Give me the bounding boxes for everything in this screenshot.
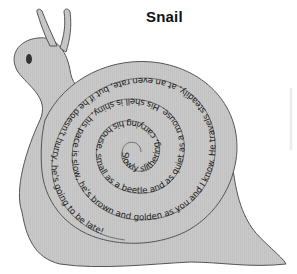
- snail-eye: [26, 54, 32, 64]
- page-edge-shadow: [289, 88, 293, 150]
- tentacle-right: [60, 9, 71, 52]
- snail-shell: Slowly slithering, carrying his house, s…: [41, 61, 237, 243]
- snail-illustration: Slowly slithering, carrying his house, s…: [0, 0, 297, 274]
